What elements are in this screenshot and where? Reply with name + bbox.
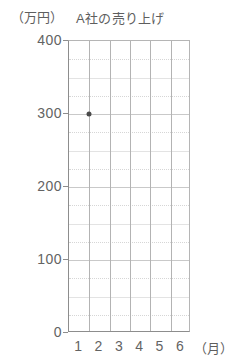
x-axis-tick-label: 3	[115, 338, 123, 354]
gridline-horizontal-major	[69, 187, 189, 188]
gridline-vertical	[89, 41, 90, 331]
x-axis-tick-label: 2	[95, 338, 103, 354]
gridlines	[69, 41, 189, 331]
gridline-horizontal-minor	[69, 169, 189, 170]
x-axis-tick-label: 1	[74, 338, 82, 354]
x-axis-tick-label: 5	[156, 338, 164, 354]
gridline-horizontal-minor	[69, 242, 189, 243]
data-point	[87, 112, 92, 117]
gridline-horizontal-minor	[69, 278, 189, 279]
y-axis-unit-label: （万円）	[11, 7, 63, 26]
gridline-vertical	[171, 41, 172, 331]
gridline-vertical	[150, 41, 151, 331]
gridline-horizontal-minor	[69, 96, 189, 97]
gridline-horizontal-minor	[69, 315, 189, 316]
gridline-horizontal-minor	[69, 205, 189, 206]
gridline-horizontal-minor	[69, 78, 189, 79]
y-axis-tickmarks	[0, 40, 68, 332]
plot-area	[68, 40, 190, 332]
chart-header: （万円） A社の売り上げ	[0, 7, 245, 29]
gridline-horizontal-major	[69, 260, 189, 261]
gridline-horizontal-minor	[69, 297, 189, 298]
x-axis-labels: 123456	[68, 338, 190, 358]
x-axis-tick-label: 4	[135, 338, 143, 354]
sales-line-chart: （万円） A社の売り上げ 4003002001000 123456 （月）	[0, 0, 245, 364]
x-axis-tick-label: 6	[176, 338, 184, 354]
gridline-vertical	[110, 41, 111, 331]
partial-bracket-icon	[0, 10, 5, 23]
gridline-horizontal-minor	[69, 224, 189, 225]
gridline-horizontal-minor	[69, 151, 189, 152]
gridline-horizontal-minor	[69, 59, 189, 60]
page-title: A社の売り上げ	[76, 8, 165, 27]
gridline-horizontal-minor	[69, 132, 189, 133]
gridline-vertical	[130, 41, 131, 331]
y-axis-tickmark	[63, 332, 68, 333]
x-axis-unit-label: （月）	[194, 338, 233, 357]
